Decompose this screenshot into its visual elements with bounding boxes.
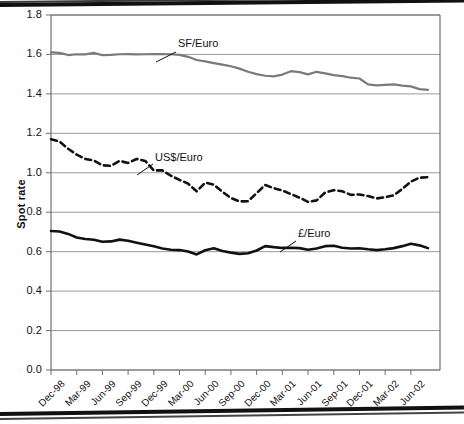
x-axis-ticks: [51, 370, 411, 375]
y-axis-tick-label: 1.6: [8, 47, 42, 59]
y-axis-tick-label: 0.2: [8, 324, 42, 336]
y-axis-tick-label: 1.0: [8, 166, 42, 178]
series-line: [51, 231, 428, 254]
y-axis-ticks: [46, 15, 51, 370]
series-label: US$/Euro: [155, 151, 203, 163]
y-axis-tick-label: 1.2: [8, 126, 42, 138]
series-label: £/Euro: [298, 227, 330, 239]
data-series-group: [51, 52, 428, 254]
leader-line: [280, 241, 296, 252]
y-axis-tick-label: 1.8: [8, 8, 42, 20]
series-label: SF/Euro: [178, 37, 218, 49]
y-axis-tick-label: 0.8: [8, 205, 42, 217]
series-line: [51, 52, 428, 89]
y-axis-tick-label: 1.4: [8, 87, 42, 99]
series-line: [51, 139, 428, 202]
plot-frame: [51, 15, 440, 370]
leader-line: [137, 164, 153, 175]
y-axis-tick-label: 0.6: [8, 245, 42, 257]
y-axis-tick-label: 0.4: [8, 284, 42, 296]
y-axis-tick-label: 0.0: [8, 363, 42, 375]
gridlines: [51, 15, 440, 370]
